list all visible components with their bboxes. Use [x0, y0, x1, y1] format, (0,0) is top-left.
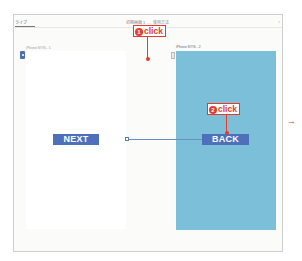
back-button[interactable]: BACK — [202, 134, 249, 145]
view-controller-2-handle-icon[interactable] — [171, 52, 175, 59]
callout-2-target-dot-icon — [225, 131, 229, 135]
segue-handle-icon[interactable] — [125, 137, 129, 141]
step-number-1-icon: 1 — [135, 28, 143, 36]
callout-1-leader-line — [147, 37, 148, 58]
tab-live[interactable]: ライブ — [15, 19, 35, 27]
screen-1-label: iPhone 8/7/6 - 1 — [26, 46, 51, 50]
callout-1-target-dot-icon — [146, 57, 150, 61]
arrow-right-icon: → — [287, 116, 296, 126]
click-callout-1: 1click — [133, 25, 166, 37]
callout-1-text: click — [144, 26, 163, 36]
segue-connector[interactable] — [127, 139, 202, 140]
click-callout-2: 2click — [207, 103, 240, 115]
initial-view-controller-icon[interactable] — [20, 51, 25, 59]
next-button[interactable]: NEXT — [53, 134, 99, 145]
screen-2-label: iPhone 8/7/6 - 2 — [176, 45, 201, 49]
callout-2-text: click — [218, 104, 237, 114]
step-number-2-icon: 2 — [209, 106, 217, 114]
zoom-control-icon[interactable]: ▫ — [279, 19, 280, 24]
storyboard-canvas: ライブ 初期画面 1—使用方法 ▫ iPhone 8/7/6 - 1 NEXT … — [13, 14, 283, 252]
